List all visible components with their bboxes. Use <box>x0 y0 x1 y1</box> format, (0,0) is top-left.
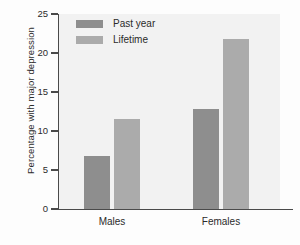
legend-item-past-year: Past year <box>76 18 155 29</box>
bar-males-past-year <box>84 156 110 209</box>
legend-swatch-past-year <box>76 20 103 28</box>
legend-label-lifetime: Lifetime <box>113 34 148 45</box>
bar-males-lifetime <box>114 119 140 209</box>
bar-females-lifetime <box>223 39 249 209</box>
bar-females-past-year <box>193 109 219 209</box>
chart-legend: Past year Lifetime <box>76 18 155 50</box>
legend-swatch-lifetime <box>76 36 103 44</box>
x-category-label-females: Females <box>171 216 271 227</box>
x-category-label-males: Males <box>62 216 162 227</box>
legend-label-past-year: Past year <box>113 18 155 29</box>
x-axis-line <box>58 209 293 210</box>
legend-item-lifetime: Lifetime <box>76 34 155 45</box>
bar-chart-figure: Percentage with major depression 0510152… <box>0 0 300 245</box>
